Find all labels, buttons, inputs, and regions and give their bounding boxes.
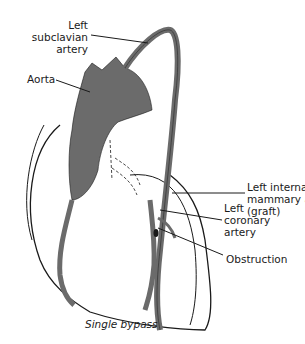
label-obstruction: Obstruction xyxy=(226,253,287,265)
heart-outline xyxy=(30,125,210,330)
bypass-diagram: Left subclavian artery Aorta Left intern… xyxy=(0,0,305,344)
atrium-outline xyxy=(27,125,44,240)
left-coronary-artery xyxy=(145,200,154,310)
label-aorta: Aorta xyxy=(27,73,55,85)
label-left-subclavian-artery: Left subclavian artery xyxy=(30,19,88,55)
right-coronary-artery xyxy=(60,200,74,305)
obstruction-marker xyxy=(154,229,159,237)
aorta xyxy=(69,57,152,200)
caption: Single bypass xyxy=(85,318,158,330)
label-left-coronary-artery: Left coronary artery xyxy=(224,202,270,238)
